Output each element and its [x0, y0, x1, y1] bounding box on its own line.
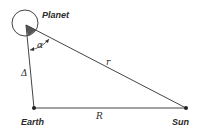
alpha-arrow-left-icon: [30, 47, 34, 51]
r-label: r: [106, 57, 110, 67]
earth-point: [32, 106, 36, 110]
planet-label: Planet: [42, 10, 69, 20]
alpha-label: α: [37, 40, 43, 50]
planet-circle: [12, 10, 38, 36]
planet-earth-sun-triangle-diagram: [0, 0, 201, 129]
sun-label: Sun: [172, 117, 189, 127]
earth-label: Earth: [21, 117, 44, 127]
delta-label: Δ: [21, 68, 28, 78]
big-r-label: R: [96, 111, 103, 121]
side-planet-earth: [26, 25, 34, 108]
sun-point: [184, 106, 188, 110]
